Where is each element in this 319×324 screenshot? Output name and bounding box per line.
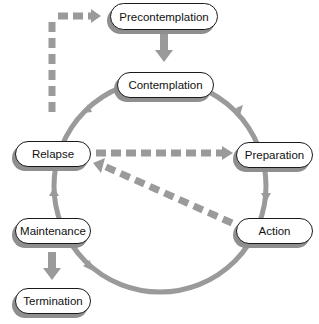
node-action: Action bbox=[236, 218, 313, 244]
arrow-relapse-to-preparation bbox=[96, 146, 233, 160]
stages-of-change-diagram: Precontemplation Contemplation Relapse P… bbox=[0, 0, 319, 324]
node-preparation: Preparation bbox=[236, 142, 313, 168]
node-contemplation: Contemplation bbox=[117, 72, 214, 98]
cycle-arrowheads bbox=[49, 104, 271, 270]
arrow-action-to-relapse bbox=[93, 158, 232, 223]
node-maintenance: Maintenance bbox=[15, 218, 91, 244]
node-relapse: Relapse bbox=[15, 141, 91, 167]
arrow-relapse-to-precontemplation bbox=[52, 9, 101, 112]
arrow-precontemplation-to-contemplation bbox=[155, 33, 173, 62]
node-precontemplation: Precontemplation bbox=[110, 3, 218, 30]
node-termination: Termination bbox=[15, 288, 91, 314]
arrow-maintenance-to-termination bbox=[43, 252, 61, 280]
